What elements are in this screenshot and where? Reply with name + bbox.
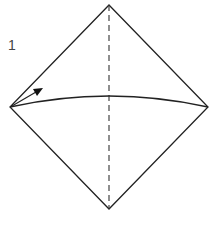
origami-diagram: [0, 0, 217, 226]
